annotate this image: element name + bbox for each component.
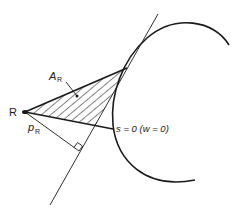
- label-area-a: A: [48, 70, 56, 82]
- label-perpendicular-sub: R: [35, 128, 40, 135]
- label-point-r: R: [9, 106, 17, 118]
- curve-s-zero: [113, 23, 229, 182]
- area-leader-dot: [76, 95, 79, 98]
- point-r-dot: [22, 110, 28, 114]
- diagram-figure: R A R p R s = 0 (w = 0): [0, 0, 241, 214]
- label-curve-s-zero: s = 0 (w = 0): [116, 123, 169, 134]
- label-area-sub: R: [57, 76, 62, 83]
- label-perpendicular-p: p: [27, 121, 34, 133]
